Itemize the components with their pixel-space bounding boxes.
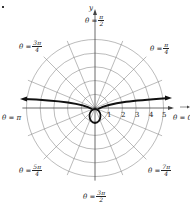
angle-label-quarter-pi: θ = π4 <box>150 42 169 55</box>
angle-label-denominator: 2 <box>99 197 103 203</box>
angle-label-text: θ = 0 <box>173 114 190 122</box>
tick-label-2: 2 <box>121 111 125 119</box>
angle-label-denominator: 2 <box>99 21 103 27</box>
angle-label-three-quarter-pi: θ = 3π4 <box>19 40 42 53</box>
tick-label-1: 1 <box>107 111 111 119</box>
curve-right-arrow-icon <box>165 96 172 101</box>
angle-label-prefix: θ = <box>19 43 31 51</box>
angle-label-text: θ = π <box>2 114 21 122</box>
angle-label-pi: θ = π <box>2 114 21 122</box>
angle-label-prefix: θ = <box>83 193 95 201</box>
angle-label-half-pi: θ = π2 <box>85 14 104 27</box>
angle-label-zero: θ = 0 <box>173 114 190 122</box>
curve-left-arrow-icon <box>20 97 27 102</box>
angle-label-prefix: θ = <box>19 167 31 175</box>
angle-label-denominator: 4 <box>35 171 39 177</box>
theta-zero-arrow-icon <box>187 106 190 109</box>
angle-label-three-half-pi: θ = 3π2 <box>83 190 106 203</box>
angle-label-denominator: 4 <box>164 49 168 55</box>
grid-radial-line <box>44 108 95 159</box>
angle-label-denominator: 4 <box>164 171 168 177</box>
y-label-text: y <box>89 4 93 12</box>
tick-label-5: 5 <box>162 111 166 119</box>
axes <box>22 9 190 181</box>
y-axis-label: y <box>89 4 93 12</box>
angle-label-prefix: θ = <box>148 167 160 175</box>
angle-label-denominator: 4 <box>35 47 39 53</box>
angle-label-five-quarter-pi: θ = 5π4 <box>19 164 42 177</box>
x-axis-arrow-icon <box>168 106 174 110</box>
angle-label-seven-quarter-pi: θ = 7π4 <box>148 164 171 177</box>
tick-label-3: 3 <box>135 111 139 119</box>
angle-label-prefix: θ = <box>85 17 97 25</box>
angle-label-prefix: θ = <box>150 45 162 53</box>
tick-label-4: 4 <box>149 111 153 119</box>
